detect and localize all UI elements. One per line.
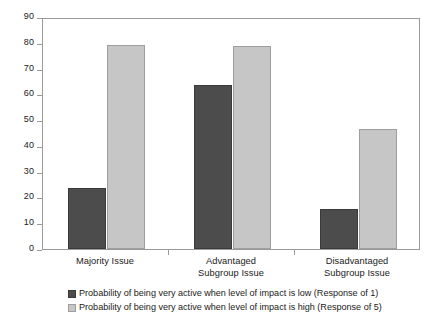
y-axis-tick-label: 50 bbox=[24, 114, 34, 124]
legend-item-high: Probability of being very active when le… bbox=[68, 302, 398, 314]
bar-high bbox=[107, 45, 145, 249]
y-axis-tick-label: 10 bbox=[24, 217, 34, 227]
bar-high bbox=[359, 129, 397, 249]
y-axis-tick-label: 80 bbox=[24, 37, 34, 47]
bar-low bbox=[68, 188, 106, 249]
bar-low bbox=[194, 85, 232, 249]
x-axis-category-label: Majority Issue bbox=[42, 256, 168, 268]
bars-container bbox=[43, 19, 419, 249]
legend-item-low: Probability of being very active when le… bbox=[68, 288, 398, 300]
y-axis: 9080706050403020100 bbox=[0, 0, 42, 251]
y-axis-tick-label: 20 bbox=[24, 191, 34, 201]
x-axis-tick-mark bbox=[294, 250, 295, 255]
legend-swatch-low-icon bbox=[68, 290, 76, 298]
legend: Probability of being very active when le… bbox=[68, 288, 398, 316]
x-axis-category-label: Advantaged Subgroup Issue bbox=[168, 256, 294, 279]
y-axis-tick-label: 60 bbox=[24, 88, 34, 98]
x-axis-tick-mark bbox=[168, 250, 169, 255]
bar-low bbox=[320, 209, 358, 249]
y-axis-tick-mark bbox=[37, 250, 42, 251]
legend-swatch-high-icon bbox=[68, 304, 76, 312]
y-axis-tick-label: 40 bbox=[24, 140, 34, 150]
bar-chart-figure: 9080706050403020100 Majority IssueAdvant… bbox=[0, 0, 439, 325]
legend-label-high: Probability of being very active when le… bbox=[79, 302, 382, 313]
x-axis-category-label: Disadvantaged Subgroup Issue bbox=[294, 256, 420, 279]
y-axis-tick-label: 30 bbox=[24, 166, 34, 176]
bar-high bbox=[233, 46, 271, 249]
y-axis-tick-label: 0 bbox=[29, 243, 34, 253]
legend-label-low: Probability of being very active when le… bbox=[79, 288, 378, 299]
y-axis-tick-label: 70 bbox=[24, 63, 34, 73]
y-axis-tick-label: 90 bbox=[24, 11, 34, 21]
plot-area bbox=[42, 18, 420, 250]
